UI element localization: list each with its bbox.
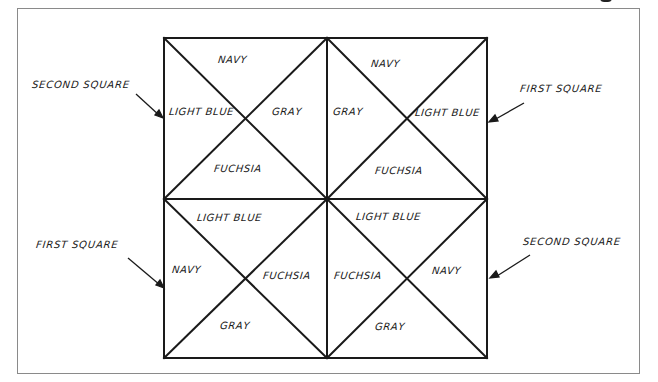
arrow-head-icon xyxy=(156,280,164,288)
triangle-label-right: LIGHT BLUE xyxy=(414,107,480,118)
callout-first-square: FIRST SQUARE xyxy=(519,83,603,94)
triangle-label-left: FUCHSIA xyxy=(333,270,382,281)
triangle-label-right: GRAY xyxy=(271,106,302,117)
arrow-line xyxy=(128,258,160,285)
triangle-label-left: NAVY xyxy=(171,264,201,275)
triangle-label-left: LIGHT BLUE xyxy=(168,106,234,117)
callout-second-square: SECOND SQUARE xyxy=(522,236,621,247)
callout-first-square: FIRST SQUARE xyxy=(35,239,119,250)
triangle-label-right: NAVY xyxy=(431,265,461,276)
triangle-label-top: NAVY xyxy=(217,54,247,65)
quilt-grid xyxy=(0,0,658,382)
triangle-label-left: GRAY xyxy=(332,106,363,117)
triangle-label-top: LIGHT BLUE xyxy=(196,212,262,223)
triangle-label-top: NAVY xyxy=(370,58,400,69)
arrow-line xyxy=(497,255,530,276)
arrow-head-icon xyxy=(489,115,498,122)
triangle-label-bottom: FUCHSIA xyxy=(213,163,262,174)
triangle-label-bottom: GRAY xyxy=(374,321,405,332)
triangle-label-bottom: GRAY xyxy=(219,320,250,331)
arrow-head-icon xyxy=(490,271,499,278)
callout-second-square: SECOND SQUARE xyxy=(31,79,130,90)
triangle-label-top: LIGHT BLUE xyxy=(355,211,421,222)
arrow-head-icon xyxy=(155,110,163,118)
triangle-label-right: FUCHSIA xyxy=(262,270,311,281)
triangle-label-bottom: FUCHSIA xyxy=(374,165,423,176)
arrow-line xyxy=(494,103,524,120)
